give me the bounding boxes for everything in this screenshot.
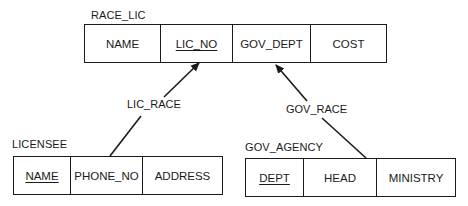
column-head: HEAD <box>304 159 377 196</box>
table-title-race-lic: RACE_LIC <box>91 9 146 21</box>
relationship-label-gov-race: GOV_RACE <box>286 103 347 115</box>
column-label: MINISTRY <box>389 172 444 184</box>
schema-diagram: RACE_LIC NAME LIC_NO GOV_DEPT COST LIC_R… <box>0 0 468 206</box>
column-phone-no: PHONE_NO <box>71 157 143 194</box>
column-label: PHONE_NO <box>74 170 139 182</box>
table-title-licensee: LICENSEE <box>12 138 67 150</box>
column-name: NAME <box>85 25 161 62</box>
column-name: NAME <box>14 157 71 194</box>
column-ministry: MINISTRY <box>377 159 455 196</box>
column-label: COST <box>333 38 365 50</box>
primary-key-label: DEPT <box>259 172 290 184</box>
table-race-lic: NAME LIC_NO GOV_DEPT COST <box>84 24 387 63</box>
column-lic-no: LIC_NO <box>161 25 233 62</box>
column-address: ADDRESS <box>143 157 222 194</box>
column-label: NAME <box>106 38 139 50</box>
column-gov-dept: GOV_DEPT <box>233 25 311 62</box>
primary-key-label: NAME <box>25 170 58 182</box>
column-label: ADDRESS <box>155 170 211 182</box>
primary-key-label: LIC_NO <box>176 38 218 50</box>
table-title-gov-agency: GOV_AGENCY <box>245 141 323 153</box>
table-gov-agency: DEPT HEAD MINISTRY <box>245 158 456 197</box>
relationship-label-lic-race: LIC_RACE <box>127 98 181 110</box>
column-dept: DEPT <box>246 159 304 196</box>
column-cost: COST <box>311 25 386 62</box>
table-licensee: NAME PHONE_NO ADDRESS <box>13 156 223 195</box>
column-label: GOV_DEPT <box>240 38 303 50</box>
column-label: HEAD <box>324 172 356 184</box>
